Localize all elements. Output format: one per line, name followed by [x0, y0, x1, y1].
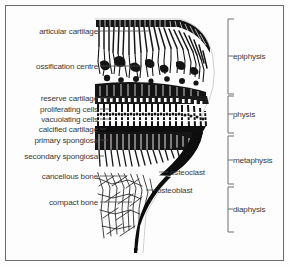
bracket-label-metaphysis: metaphysis	[233, 156, 272, 165]
region-brackets	[0, 0, 290, 267]
bracket-label-diaphysis: diaphysis	[233, 205, 265, 214]
figure-long-bone-growth-plate: articular cartilage ossification centre …	[0, 0, 290, 267]
bracket-label-epiphysis: epiphysis	[233, 52, 265, 61]
bracket-label-physis: physis	[233, 110, 255, 119]
